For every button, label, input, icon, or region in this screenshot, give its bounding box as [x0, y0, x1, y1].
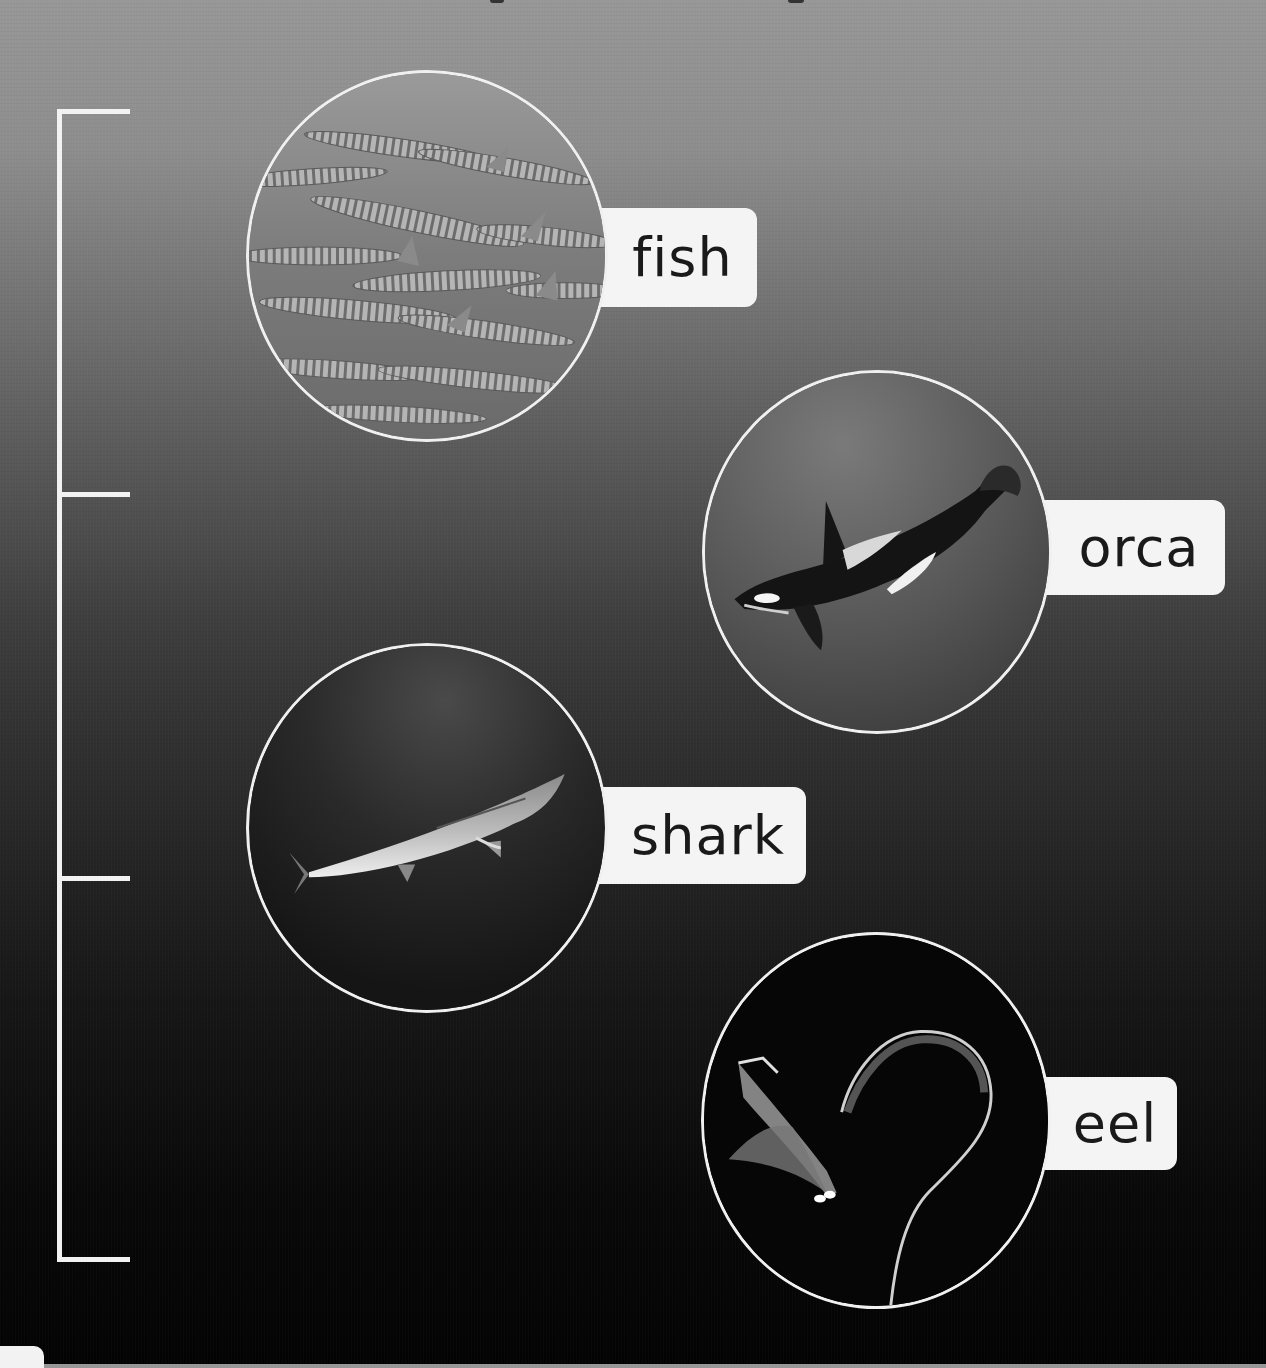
- fish-photo: [246, 70, 608, 442]
- bracket-tick-2: [57, 492, 130, 497]
- bracket-tick-1: [57, 109, 130, 114]
- eel-icon: [704, 935, 1048, 1306]
- label-eel-text: eel: [1073, 1097, 1157, 1151]
- label-fish-text: fish: [632, 231, 732, 285]
- label-orca: orca: [1035, 500, 1225, 595]
- label-eel: eel: [1035, 1077, 1177, 1170]
- school-of-fish-icon: [249, 73, 605, 439]
- label-orca-text: orca: [1079, 521, 1200, 575]
- bracket-tick-3: [57, 876, 130, 881]
- orca-photo: [702, 370, 1052, 734]
- label-fish: fish: [590, 208, 757, 307]
- bracket-spine: [57, 109, 62, 1262]
- label-shark: shark: [592, 787, 806, 884]
- label-shark-text: shark: [631, 809, 785, 863]
- page-corner-tab: [0, 1346, 44, 1368]
- shark-photo: [246, 643, 608, 1013]
- clipped-heading-fragment: [788, 0, 804, 3]
- shark-icon: [249, 646, 605, 1010]
- orca-icon: [705, 373, 1049, 731]
- eel-photo: [701, 932, 1051, 1309]
- bracket-tick-4: [57, 1257, 130, 1262]
- clipped-heading-fragment: [490, 0, 504, 3]
